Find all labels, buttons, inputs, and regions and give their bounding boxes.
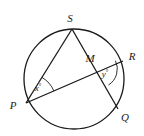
angle-label-y-degree: °: [106, 68, 109, 75]
angle-label-x: x°: [34, 82, 42, 93]
circle-outline: [24, 29, 124, 129]
segment-sq: [72, 29, 118, 109]
circle-geometry-diagram: S P Q R M x° y°: [0, 0, 144, 136]
angle-label-y: y°: [101, 68, 109, 79]
segment-sp: [26, 29, 72, 103]
point-label-s: S: [67, 12, 73, 24]
point-label-m: M: [84, 52, 95, 64]
angle-arc-x: [42, 77, 54, 91]
angle-label-x-degree: °: [39, 82, 42, 89]
point-label-r: R: [128, 50, 136, 62]
point-label-p: P: [9, 99, 17, 111]
point-label-q: Q: [121, 111, 129, 123]
